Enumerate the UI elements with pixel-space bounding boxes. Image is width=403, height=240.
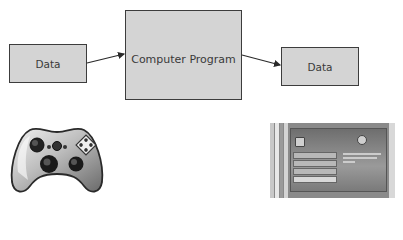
thumb-desc-line bbox=[343, 153, 381, 155]
thumb-desc-line bbox=[343, 161, 355, 163]
thumb-menu-item bbox=[293, 152, 337, 159]
thumb-menu-panel bbox=[290, 128, 387, 192]
thumb-menu-item bbox=[293, 160, 337, 167]
thumb-logo-icon bbox=[357, 135, 367, 145]
thumb-stripe bbox=[284, 123, 288, 198]
thumb-stripe bbox=[270, 123, 274, 198]
arrow-input-to-program bbox=[87, 54, 124, 63]
thumb-stripe bbox=[389, 123, 395, 198]
thumb-menu-item bbox=[293, 176, 337, 183]
thumb-menu-item bbox=[293, 168, 337, 175]
thumb-stripe bbox=[280, 123, 283, 198]
thumb-stripe bbox=[275, 123, 279, 198]
thumb-desc-line bbox=[343, 157, 377, 159]
arrow-program-to-output bbox=[242, 55, 280, 65]
game-controller-icon bbox=[8, 124, 106, 196]
game-menu-screenshot bbox=[270, 123, 395, 198]
thumb-avatar-icon bbox=[295, 137, 305, 147]
